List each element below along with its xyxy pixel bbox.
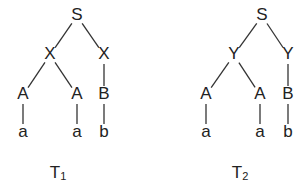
tree-node: a (201, 122, 211, 141)
tree-node: Y (282, 44, 293, 63)
tree-node: X (44, 44, 55, 63)
tree-node: A (71, 84, 83, 103)
tree-caption: T1 (50, 163, 67, 182)
tree-t2: SYYAABaabT2 (200, 5, 293, 182)
tree-edge (28, 62, 45, 87)
tree-node: a (18, 122, 28, 141)
tree-node: b (99, 122, 108, 141)
tree-edge (55, 62, 72, 87)
tree-node: B (98, 84, 109, 103)
tree-edge (55, 23, 72, 47)
tree-edge (211, 62, 229, 87)
tree-edge (239, 63, 255, 88)
tree-edge (82, 23, 99, 47)
tree-node: B (282, 84, 293, 103)
tree-node: A (17, 84, 29, 103)
tree-t1: SXXAABaabT1 (17, 5, 109, 182)
tree-node: S (256, 5, 267, 24)
tree-node: a (255, 122, 265, 141)
tree-edge (239, 23, 257, 47)
tree-node: b (283, 122, 292, 141)
tree-node: A (254, 84, 266, 103)
tree-node: a (72, 122, 82, 141)
tree-node: X (98, 44, 109, 63)
tree-node: S (71, 5, 82, 24)
tree-edge (267, 23, 283, 47)
parse-tree-diagram: SXXAABaabT1SYYAABaabT2 (0, 0, 306, 192)
tree-node: Y (228, 44, 239, 63)
tree-caption: T2 (232, 163, 249, 182)
tree-node: A (200, 84, 212, 103)
